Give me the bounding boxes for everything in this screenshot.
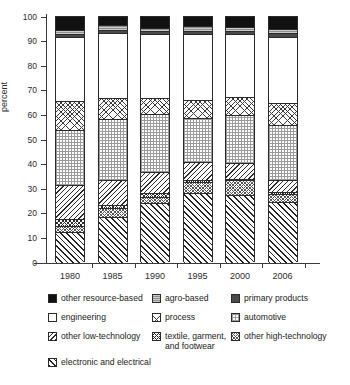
- legend-label: automotive: [244, 312, 286, 322]
- legend-label: agro-based: [165, 293, 208, 303]
- x-tick-label-1980: 1980: [47, 271, 93, 281]
- legend-label: textile, garment, and footwear: [165, 331, 226, 351]
- legend-label: process: [165, 312, 195, 322]
- legend-item[interactable]: engineering: [48, 312, 106, 322]
- y-tick-label: 70: [13, 86, 37, 95]
- bar-segment[interactable]: [184, 101, 212, 119]
- y-tick-label: 40: [13, 160, 37, 169]
- bar-1980[interactable]: [55, 16, 85, 262]
- bar-segment[interactable]: [56, 233, 84, 263]
- legend-item[interactable]: textile, garment, and footwear: [152, 331, 226, 351]
- bar-segment[interactable]: [56, 102, 84, 131]
- bar-segment[interactable]: [269, 195, 297, 203]
- bar-segment[interactable]: [141, 204, 169, 263]
- bar-segment[interactable]: [184, 119, 212, 164]
- y-tick-label: 10: [13, 234, 37, 243]
- x-tick: [305, 263, 306, 268]
- bar-segment[interactable]: [184, 194, 212, 263]
- legend-item[interactable]: other low-technology: [48, 331, 140, 341]
- legend-label: primary products: [244, 293, 308, 303]
- legend-item[interactable]: process: [152, 312, 195, 322]
- y-tick: [41, 238, 46, 239]
- bar-segment[interactable]: [226, 17, 254, 28]
- chart-legend: other resource-basedagro-basedprimary pr…: [0, 289, 350, 385]
- y-tick: [41, 66, 46, 67]
- y-tick: [41, 115, 46, 116]
- x-tick-label-1995: 1995: [175, 271, 221, 281]
- x-tick-label-1985: 1985: [90, 271, 136, 281]
- bar-segment[interactable]: [56, 17, 84, 31]
- x-tick-label-2006: 2006: [260, 271, 306, 281]
- x-tick: [92, 263, 93, 268]
- bar-segment[interactable]: [184, 183, 212, 194]
- bar-segment[interactable]: [226, 35, 254, 98]
- bar-segment[interactable]: [141, 173, 169, 194]
- bar-segment[interactable]: [269, 38, 297, 104]
- bar-segment[interactable]: [269, 181, 297, 193]
- y-tick-label: 30: [13, 185, 37, 194]
- bar-segment[interactable]: [99, 218, 127, 263]
- legend-item[interactable]: other resource-based: [48, 293, 143, 303]
- y-tick: [41, 213, 46, 214]
- bar-segment[interactable]: [56, 220, 84, 227]
- bar-2000[interactable]: [225, 16, 255, 262]
- bar-segment[interactable]: [141, 115, 169, 172]
- bar-segment[interactable]: [99, 181, 127, 206]
- y-tick-label: 50: [13, 136, 37, 145]
- bar-2006[interactable]: [268, 16, 298, 262]
- bar-segment[interactable]: [269, 203, 297, 263]
- bar-segment[interactable]: [184, 163, 212, 181]
- legend-swatch-icon: [231, 332, 240, 341]
- y-tick: [41, 41, 46, 42]
- y-tick: [41, 164, 46, 165]
- legend-swatch-icon: [48, 332, 57, 341]
- legend-label: engineering: [61, 312, 106, 322]
- legend-item[interactable]: automotive: [231, 312, 286, 322]
- bar-segment[interactable]: [226, 98, 254, 116]
- bar-segment[interactable]: [141, 99, 169, 115]
- legend-item[interactable]: other high-technology: [231, 331, 327, 341]
- bar-segment[interactable]: [269, 17, 297, 30]
- bar-segment[interactable]: [56, 38, 84, 102]
- plot-area: [47, 16, 302, 262]
- bar-1990[interactable]: [140, 16, 170, 262]
- legend-swatch-icon: [48, 294, 57, 303]
- bar-segment[interactable]: [226, 196, 254, 263]
- y-tick-label: 60: [13, 111, 37, 120]
- bar-segment[interactable]: [56, 131, 84, 186]
- bar-segment[interactable]: [269, 126, 297, 182]
- y-axis-title: percent: [0, 82, 9, 112]
- bar-segment[interactable]: [56, 186, 84, 220]
- bar-segment[interactable]: [184, 35, 212, 101]
- bar-segment[interactable]: [184, 17, 212, 27]
- legend-label: electronic and electrical: [61, 357, 151, 367]
- bar-1985[interactable]: [98, 16, 128, 262]
- y-tick: [41, 263, 46, 264]
- legend-swatch-icon: [48, 313, 57, 322]
- bar-segment[interactable]: [226, 164, 254, 180]
- bar-segment[interactable]: [99, 120, 127, 181]
- legend-swatch-icon: [152, 294, 161, 303]
- x-tick: [262, 263, 263, 268]
- bar-segment[interactable]: [226, 181, 254, 195]
- bar-segment[interactable]: [99, 34, 127, 99]
- x-tick: [220, 263, 221, 268]
- y-tick: [41, 90, 46, 91]
- x-tick-label-2000: 2000: [217, 271, 263, 281]
- legend-label: other high-technology: [244, 331, 327, 341]
- bar-segment[interactable]: [99, 99, 127, 120]
- legend-swatch-icon: [48, 358, 57, 367]
- bar-1995[interactable]: [183, 16, 213, 262]
- bar-segment[interactable]: [141, 35, 169, 99]
- bar-segment[interactable]: [269, 104, 297, 126]
- bar-segment[interactable]: [226, 116, 254, 163]
- bar-segment[interactable]: [99, 17, 127, 26]
- legend-label: other low-technology: [61, 331, 140, 341]
- bar-segment[interactable]: [99, 209, 127, 218]
- legend-item[interactable]: primary products: [231, 293, 308, 303]
- legend-item[interactable]: electronic and electrical: [48, 357, 151, 367]
- chart-figure: 0102030405060708090100 percent other res…: [0, 0, 350, 385]
- y-tick-label: 80: [13, 62, 37, 71]
- legend-item[interactable]: agro-based: [152, 293, 208, 303]
- bar-segment[interactable]: [141, 17, 169, 29]
